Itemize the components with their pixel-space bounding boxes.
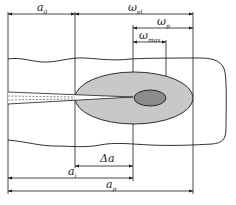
label-delta-a: Δa <box>100 153 115 164</box>
label-omega-el: ωel <box>128 2 142 15</box>
label-ai: ai <box>68 166 76 179</box>
label-omega-p: ωp <box>157 16 170 29</box>
crack-plastic-zone-diagram <box>0 0 236 205</box>
label-ap: ap <box>106 179 116 192</box>
label-a0: a0 <box>37 2 47 15</box>
label-omega-max: ωmax <box>139 30 161 43</box>
small-plastic-zone-ellipse <box>134 90 166 106</box>
